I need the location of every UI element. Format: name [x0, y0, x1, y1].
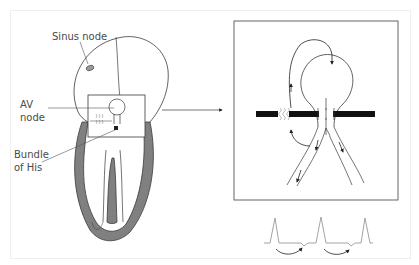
ecg-arrow-1 — [276, 248, 302, 254]
heart-illustration — [74, 37, 168, 241]
diagram-canvas: Sinus node AV node Bundle of His — [0, 0, 419, 265]
ecg-strip — [264, 217, 373, 254]
label-av-node-1: AV — [20, 99, 33, 110]
septum — [107, 158, 117, 224]
label-sinus-node: Sinus node — [52, 31, 107, 42]
label-bundle-1: Bundle — [14, 149, 49, 160]
av-reentry-detail-panel — [234, 21, 398, 200]
label-av-node-2: node — [20, 112, 45, 123]
ecg-trace — [264, 217, 373, 246]
ecg-arrow-2 — [324, 249, 349, 254]
block-bar-left — [256, 111, 278, 117]
label-bundle-2: of His — [14, 162, 42, 173]
